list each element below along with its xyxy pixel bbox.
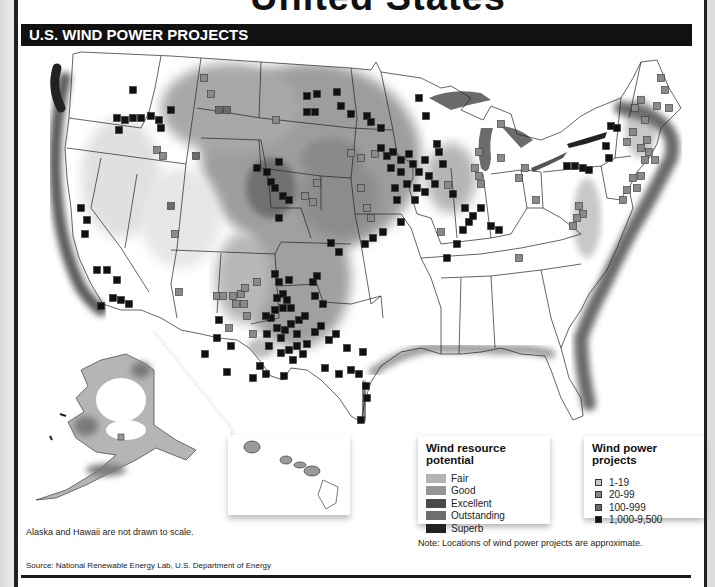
legend-label: Good [451, 485, 475, 496]
legend-label: 1-19 [609, 477, 629, 488]
project-marker [116, 127, 123, 134]
project-marker [224, 107, 231, 114]
project-marker [272, 271, 279, 278]
project-marker [364, 395, 371, 402]
project-marker [334, 89, 341, 96]
project-marker [426, 173, 433, 180]
project-marker [356, 371, 363, 378]
legend-swatch [426, 524, 446, 533]
project-marker [662, 87, 669, 94]
project-marker [422, 157, 429, 164]
project-marker [404, 181, 411, 188]
project-marker [410, 161, 417, 168]
legend-resource-item: Superb [426, 522, 542, 535]
project-marker [216, 317, 223, 324]
page-heading-partial: United States [250, 0, 506, 19]
project-marker [130, 115, 137, 122]
legend-marker-swatch [595, 491, 602, 498]
project-marker [378, 125, 385, 132]
legend-swatch [426, 474, 446, 483]
project-marker [276, 159, 283, 166]
legend-project-item: 1,000-9,500 [592, 514, 696, 527]
project-marker [440, 161, 447, 168]
project-marker [78, 205, 85, 212]
project-marker [254, 165, 261, 172]
project-marker [634, 185, 641, 192]
location-approximate-note: Note: Locations of wind power projects a… [418, 538, 643, 548]
project-marker [574, 215, 581, 222]
project-marker [122, 117, 129, 124]
hawaii-inset [228, 435, 350, 515]
project-marker [160, 153, 167, 160]
project-marker [312, 293, 319, 300]
project-marker [358, 185, 365, 192]
legend-label: 1,000-9,500 [609, 514, 662, 525]
project-marker [263, 313, 270, 320]
project-marker [444, 255, 451, 262]
project-marker [314, 91, 321, 98]
project-marker [82, 231, 89, 238]
project-marker [156, 117, 163, 124]
project-marker [630, 175, 637, 182]
project-marker [363, 383, 370, 390]
legend-resource-item: Excellent [426, 497, 542, 510]
project-marker [348, 111, 355, 118]
project-marker [398, 157, 405, 164]
inset-scale-note: Alaska and Hawaii are not drawn to scale… [26, 527, 194, 537]
project-marker [158, 125, 165, 132]
project-marker [276, 279, 283, 286]
project-marker [390, 149, 397, 156]
project-marker [310, 199, 317, 206]
project-marker [572, 163, 579, 170]
project-marker [172, 231, 179, 238]
project-marker [638, 173, 645, 180]
project-marker [320, 301, 327, 308]
project-marker [462, 205, 469, 212]
project-marker [516, 175, 523, 182]
legend-resource-title: Wind resource potential [426, 442, 542, 466]
project-marker [233, 301, 240, 308]
project-marker [254, 279, 261, 286]
project-marker [414, 185, 421, 192]
project-marker [336, 249, 343, 256]
project-marker [378, 145, 385, 152]
project-marker [220, 293, 227, 300]
project-marker [380, 229, 387, 236]
legend-projects-title: Wind power projects [592, 442, 696, 466]
legend-label: Outstanding [451, 510, 505, 521]
project-marker [570, 223, 577, 230]
project-marker [288, 305, 295, 312]
project-marker [338, 103, 345, 110]
project-marker [466, 219, 473, 226]
project-marker [358, 155, 365, 162]
bottom-rule [21, 575, 691, 578]
project-marker [416, 169, 423, 176]
project-marker [438, 229, 445, 236]
project-marker [241, 301, 248, 308]
legend-label: Fair [451, 473, 468, 484]
project-marker [193, 153, 200, 160]
project-marker [273, 117, 280, 124]
project-marker [638, 97, 645, 104]
project-marker [98, 303, 105, 310]
project-marker [620, 197, 627, 204]
project-marker [478, 205, 485, 212]
legend-wind-projects: Wind power projects 1-1920-99100-9991,00… [584, 436, 704, 518]
project-marker [432, 181, 439, 188]
project-marker [201, 75, 208, 82]
project-marker [496, 227, 503, 234]
hawaii-map [228, 435, 350, 515]
project-marker [606, 155, 613, 162]
legend-label: 20-99 [609, 489, 635, 500]
project-marker [638, 145, 645, 152]
project-marker [130, 87, 137, 94]
project-marker [104, 267, 111, 274]
project-marker [454, 241, 461, 248]
project-marker [478, 181, 485, 188]
legend-resource-item: Fair [426, 472, 542, 485]
project-marker [472, 165, 479, 172]
frame-border-left [14, 0, 18, 587]
project-marker [576, 203, 583, 210]
project-marker [302, 313, 309, 320]
project-marker [434, 141, 441, 148]
